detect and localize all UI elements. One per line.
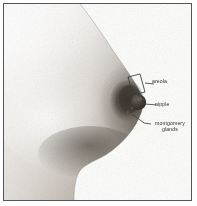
breast-anatomy-figure: areola nipple montgomery glands [0, 0, 197, 206]
label-montgomery-line2: glands [148, 127, 192, 133]
label-areola: areola [152, 79, 167, 85]
label-nipple: nipple [155, 102, 170, 108]
label-montgomery-glands: montgomery glands [148, 121, 192, 132]
